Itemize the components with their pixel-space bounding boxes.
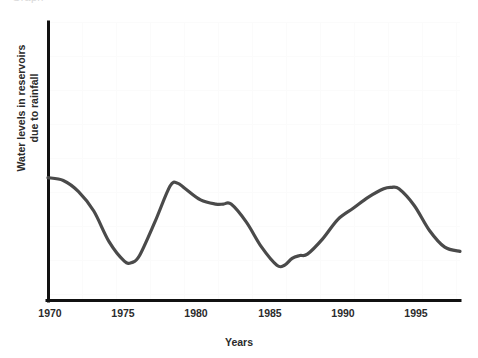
xtick-label-1985: 1985 [258, 307, 281, 319]
chart-figure: Graph 1970 1975 1980 1985 1990 1995 Year… [0, 0, 478, 358]
y-axis-label-line-2: due to rainfall [28, 18, 41, 198]
xtick-label-1990: 1990 [331, 307, 354, 319]
xtick-label-1975: 1975 [111, 307, 134, 319]
xtick-label-1980: 1980 [184, 307, 207, 319]
x-axis-label: Years [0, 336, 478, 348]
xtick-label-1970: 1970 [38, 307, 61, 319]
series-line-water-levels [48, 178, 460, 267]
y-axis-label-line-1: Water levels in reservoirs [15, 18, 28, 198]
y-axis-label: Water levels in reservoirs due to rainfa… [15, 18, 41, 198]
chart-canvas [0, 0, 478, 358]
xtick-label-1995: 1995 [404, 307, 427, 319]
